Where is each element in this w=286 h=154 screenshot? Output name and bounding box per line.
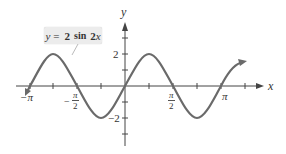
x-tick-label-neg-half-pi: π 2 [72,91,79,111]
frac-den: 2 [169,101,174,111]
frac-num: π [168,91,175,101]
label-pointer [72,44,78,55]
eq-sign: = [53,30,59,42]
x-tick-label-half-pi: π 2 [168,91,175,111]
y-tick-label-neg2: −2 [108,113,120,124]
x-axis [16,83,264,89]
eq-lhs: y [45,30,50,42]
equation-label: y = 2 sin 2 x [44,27,102,44]
eq-fn: sin [74,30,86,41]
x-tick-label-neg-pi: −π [20,92,33,103]
frac-den: 2 [73,101,78,111]
x-tick-label-neg-half-pi-sign: − [64,97,70,107]
x-tick-label-pi: π [222,91,228,102]
graph-canvas [0,0,286,154]
curve-arrow-right [238,59,247,66]
eq-arg-var: x [96,30,101,42]
x-axis-label: x [268,80,273,92]
frac-num: π [72,91,79,101]
y-tick-label-2: 2 [113,49,119,60]
y-axis-label: y [121,6,126,18]
eq-coef: 2 [64,30,70,42]
